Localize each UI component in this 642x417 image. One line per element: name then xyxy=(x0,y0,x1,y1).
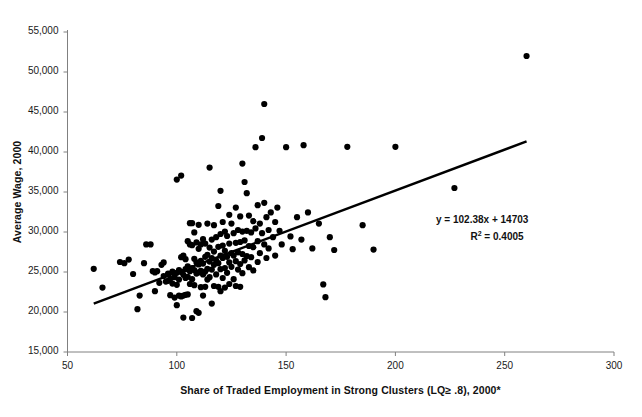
data-point xyxy=(279,241,285,247)
x-tick-label: 150 xyxy=(266,360,306,371)
data-point xyxy=(178,173,184,179)
data-point xyxy=(266,245,272,251)
data-point xyxy=(154,268,160,274)
y-axis-title: Average Wage, 2000 xyxy=(11,112,23,272)
data-point xyxy=(322,294,328,300)
data-point xyxy=(180,315,186,321)
data-point xyxy=(300,142,306,148)
data-point xyxy=(202,284,208,290)
y-tick-label: 55,000 xyxy=(15,25,59,36)
data-point xyxy=(266,227,272,233)
data-point xyxy=(237,213,243,219)
axis-lines xyxy=(64,30,615,356)
data-point xyxy=(137,293,143,299)
data-point xyxy=(263,255,269,261)
data-point xyxy=(261,200,267,206)
data-point xyxy=(239,161,245,167)
data-point xyxy=(220,275,226,281)
data-point xyxy=(226,212,232,218)
x-tick-label: 200 xyxy=(375,360,415,371)
x-axis-title: Share of Traded Employment in Strong Clu… xyxy=(67,384,614,396)
data-point xyxy=(152,288,158,294)
data-point xyxy=(130,271,136,277)
data-point xyxy=(204,221,210,227)
data-point xyxy=(161,259,167,265)
data-point xyxy=(298,237,304,243)
r-squared-value: R2 = 0.4005 xyxy=(434,227,584,244)
y-tick-label: 20,000 xyxy=(15,305,59,316)
data-point xyxy=(250,218,256,224)
data-point xyxy=(224,270,230,276)
data-point xyxy=(185,291,191,297)
data-point xyxy=(99,285,105,291)
data-point xyxy=(241,237,247,243)
data-point xyxy=(134,306,140,312)
x-tick-label: 100 xyxy=(157,360,197,371)
data-point xyxy=(220,219,226,225)
data-point xyxy=(259,135,265,141)
data-point xyxy=(224,233,230,239)
data-point xyxy=(320,281,326,287)
data-point xyxy=(294,214,300,220)
data-point xyxy=(239,270,245,276)
data-point xyxy=(206,274,212,280)
data-point xyxy=(331,247,337,253)
data-point xyxy=(126,257,132,263)
data-point xyxy=(200,293,206,299)
data-point xyxy=(246,213,252,219)
data-point xyxy=(316,221,322,227)
data-point xyxy=(344,144,350,150)
data-point xyxy=(91,266,97,272)
data-point xyxy=(255,202,261,208)
y-tick-label: 50,000 xyxy=(15,65,59,76)
data-point xyxy=(209,301,215,307)
data-point xyxy=(255,259,261,265)
data-point xyxy=(283,144,289,150)
data-point xyxy=(272,219,278,225)
data-point xyxy=(191,282,197,288)
scatter-chart: 15,00020,00025,00030,00035,00040,00045,0… xyxy=(0,0,642,417)
data-point xyxy=(392,144,398,150)
data-point xyxy=(196,222,202,228)
data-point xyxy=(211,249,217,255)
data-point xyxy=(241,179,247,185)
data-point xyxy=(228,221,234,227)
data-point xyxy=(217,188,223,194)
data-point xyxy=(272,253,278,259)
data-point xyxy=(226,281,232,287)
data-point xyxy=(252,225,258,231)
data-point xyxy=(189,315,195,321)
r-squared-symbol: R xyxy=(470,231,477,242)
regression-annotation: y = 102.38x + 14703 R2 = 0.4005 xyxy=(434,213,584,244)
data-point xyxy=(213,271,219,277)
data-point xyxy=(176,277,182,283)
data-point xyxy=(360,222,366,228)
data-point xyxy=(211,222,217,228)
data-point xyxy=(244,190,250,196)
data-point xyxy=(189,276,195,282)
data-point xyxy=(196,310,202,316)
data-point xyxy=(523,53,529,59)
data-point xyxy=(233,205,239,211)
data-point xyxy=(327,234,333,240)
data-point xyxy=(206,165,212,171)
data-point xyxy=(250,267,256,273)
data-point xyxy=(261,101,267,107)
data-point xyxy=(263,214,269,220)
data-point xyxy=(370,247,376,253)
data-point xyxy=(191,229,197,235)
data-point xyxy=(237,284,243,290)
data-point xyxy=(257,250,263,256)
plot-canvas xyxy=(0,0,642,417)
data-point xyxy=(309,245,315,251)
data-point xyxy=(226,241,232,247)
data-point xyxy=(451,185,457,191)
data-point xyxy=(274,205,280,211)
data-point xyxy=(189,220,195,226)
data-point xyxy=(147,241,153,247)
x-tick-label: 250 xyxy=(485,360,525,371)
x-tick-label: 50 xyxy=(48,360,88,371)
data-point xyxy=(248,254,254,260)
data-point xyxy=(182,256,188,262)
x-tick-label: 300 xyxy=(594,360,634,371)
